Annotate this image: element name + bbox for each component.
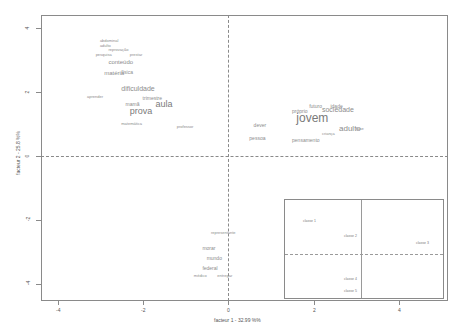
word-label: conteúdo <box>108 59 133 65</box>
word-label: próprio <box>292 109 308 114</box>
word-label: matéria <box>104 70 124 76</box>
class-label-5: classe 5 <box>344 289 357 293</box>
word-label: idade <box>330 104 342 109</box>
zero-line-horizontal <box>41 156 448 157</box>
x-tick-label: 4 <box>398 307 401 313</box>
word-label: morar <box>202 246 215 251</box>
word-label: federal <box>202 266 217 271</box>
word-label: representante <box>211 231 236 235</box>
word-label: pesquisa <box>96 53 112 57</box>
class-label-2: classe 2 <box>344 234 357 238</box>
word-label: mundo <box>207 256 222 261</box>
word-label: prestar <box>130 53 142 57</box>
class-label-4: classe 4 <box>344 277 357 281</box>
inset-zero-line-vertical <box>361 200 362 298</box>
word-label: pensamento <box>292 138 320 143</box>
y-tick <box>36 92 41 93</box>
inset-zero-line-horizontal <box>285 254 443 255</box>
x-tick-label: -2 <box>141 307 145 313</box>
word-label: prova <box>130 107 153 116</box>
x-tick <box>58 301 59 305</box>
x-axis-title: facteur 1 - 32.99 %% <box>214 317 261 323</box>
word-label: aprender <box>87 95 103 99</box>
x-tick-label: -4 <box>56 307 60 313</box>
word-label: professor <box>177 125 194 129</box>
word-label: dificuldade <box>121 85 154 92</box>
word-label: criança <box>322 132 335 136</box>
y-tick <box>36 156 41 157</box>
y-tick-label: 2 <box>24 91 30 94</box>
y-tick <box>36 28 41 29</box>
y-tick-label: -4 <box>25 281 31 285</box>
y-tick <box>36 284 41 285</box>
word-label: entregar <box>217 274 232 278</box>
word-label: fase <box>356 127 364 131</box>
word-label: aula <box>155 100 172 109</box>
word-label: matemática <box>121 122 142 126</box>
x-tick <box>314 301 315 305</box>
x-tick-label: 0 <box>227 307 230 313</box>
x-tick-label: 2 <box>313 307 316 313</box>
y-axis-title: facteur 2 - 25.8 %% <box>15 131 21 175</box>
word-label: futuro <box>309 104 322 109</box>
y-tick-label: 4 <box>24 27 30 30</box>
class-label-3: classe 3 <box>416 241 429 245</box>
zero-line-vertical <box>228 15 229 301</box>
y-tick-label: -2 <box>25 217 31 221</box>
x-tick <box>228 301 229 305</box>
word-label: pessoa <box>249 136 265 141</box>
class-inset-box: classe 1 classe 2 classe 3 classe 4 clas… <box>284 199 444 299</box>
word-label: médico <box>194 274 207 278</box>
y-tick-label: 0 <box>24 155 30 158</box>
word-label: dever <box>254 123 267 128</box>
y-tick <box>36 220 41 221</box>
class-label-1: classe 1 <box>303 219 316 223</box>
x-tick <box>399 301 400 305</box>
x-tick <box>143 301 144 305</box>
